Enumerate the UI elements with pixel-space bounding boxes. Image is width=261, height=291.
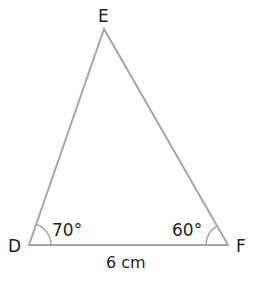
angle-label-f: 60° xyxy=(172,220,202,240)
vertex-label-d: D xyxy=(8,236,21,256)
angle-arc-f xyxy=(206,226,217,245)
triangle-diagram: E D F 70° 60° 6 cm xyxy=(0,0,261,291)
angle-label-d: 70° xyxy=(52,220,82,240)
angle-arc-d xyxy=(36,224,51,245)
vertex-label-e: E xyxy=(98,6,109,26)
side-label-df: 6 cm xyxy=(106,253,146,272)
triangle-def xyxy=(29,29,228,245)
vertex-label-f: F xyxy=(236,236,246,256)
